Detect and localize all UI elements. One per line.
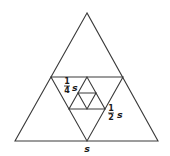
- half-numerator: 1: [108, 104, 114, 113]
- half-variable: s: [117, 109, 123, 120]
- quarter-s-label: 1 4 s: [64, 77, 78, 95]
- third-inverted-triangle: [78, 93, 96, 109]
- quarter-denominator: 4: [64, 86, 70, 95]
- half-denominator: 2: [108, 113, 114, 122]
- full-s-label: s: [84, 143, 90, 154]
- quarter-variable: s: [72, 82, 78, 93]
- nested-triangle-diagram: 1 4 s 1 2 s s: [0, 0, 170, 156]
- half-s-label: 1 2 s: [108, 104, 123, 122]
- quarter-numerator: 1: [64, 77, 70, 86]
